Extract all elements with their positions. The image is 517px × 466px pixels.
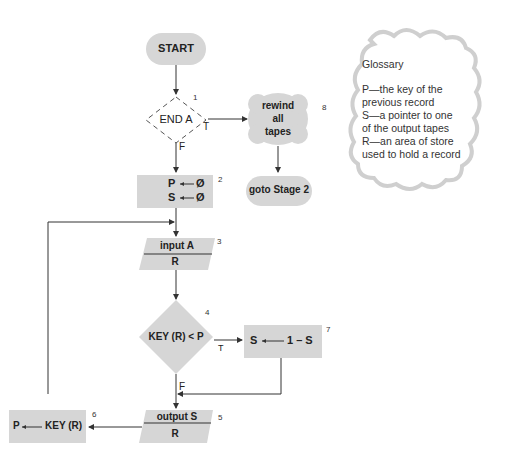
s-init-rhs: Ø bbox=[196, 191, 205, 203]
node-4-false-label: F bbox=[179, 381, 185, 392]
node-4-true-label: T bbox=[218, 343, 224, 353]
node-1-false-label: F bbox=[179, 141, 185, 152]
toggle-s-rhs: 1 – S bbox=[287, 334, 313, 346]
glossary-title: Glossary bbox=[362, 58, 502, 71]
assign-p-lhs: P bbox=[13, 420, 20, 431]
node-4-number: 4 bbox=[205, 308, 209, 317]
p-init-rhs: Ø bbox=[196, 177, 205, 189]
output-s-label: output S bbox=[142, 411, 212, 422]
goto-label: goto Stage 2 bbox=[246, 184, 312, 195]
node-1-true-label: T bbox=[203, 121, 209, 132]
node-8-number: 8 bbox=[322, 103, 326, 112]
rewind-line2: all bbox=[248, 113, 308, 124]
node-2-number: 2 bbox=[218, 175, 222, 184]
glossary: Glossary P—the key of the previous recor… bbox=[362, 58, 502, 161]
p-init-lhs: P bbox=[168, 177, 175, 189]
end-a-label: END A bbox=[146, 113, 206, 125]
glossary-line: of the output tapes bbox=[362, 122, 502, 135]
glossary-line: previous record bbox=[362, 96, 502, 109]
assign-p-rhs: KEY (R) bbox=[45, 420, 82, 431]
glossary-line: R—an area of store bbox=[362, 135, 502, 148]
output-r-label: R bbox=[140, 428, 210, 439]
s-init-lhs: S bbox=[168, 191, 175, 203]
start-label: START bbox=[146, 42, 206, 54]
input-r-label: R bbox=[140, 256, 210, 267]
node-3-number: 3 bbox=[217, 237, 221, 246]
glossary-line: used to hold a record bbox=[362, 148, 502, 161]
rewind-line1: rewind bbox=[248, 100, 308, 111]
node-1-number: 1 bbox=[193, 93, 197, 102]
rewind-line3: tapes bbox=[248, 126, 308, 137]
input-a-label: input A bbox=[142, 240, 212, 251]
node-6-number: 6 bbox=[92, 410, 96, 419]
toggle-s-lhs: S bbox=[250, 334, 257, 346]
key-compare-label: KEY (R) < P bbox=[139, 331, 213, 342]
glossary-line: P—the key of the bbox=[362, 83, 502, 96]
glossary-line: S—a pointer to one bbox=[362, 109, 502, 122]
node-7-number: 7 bbox=[326, 325, 330, 334]
node-5-number: 5 bbox=[218, 413, 222, 422]
